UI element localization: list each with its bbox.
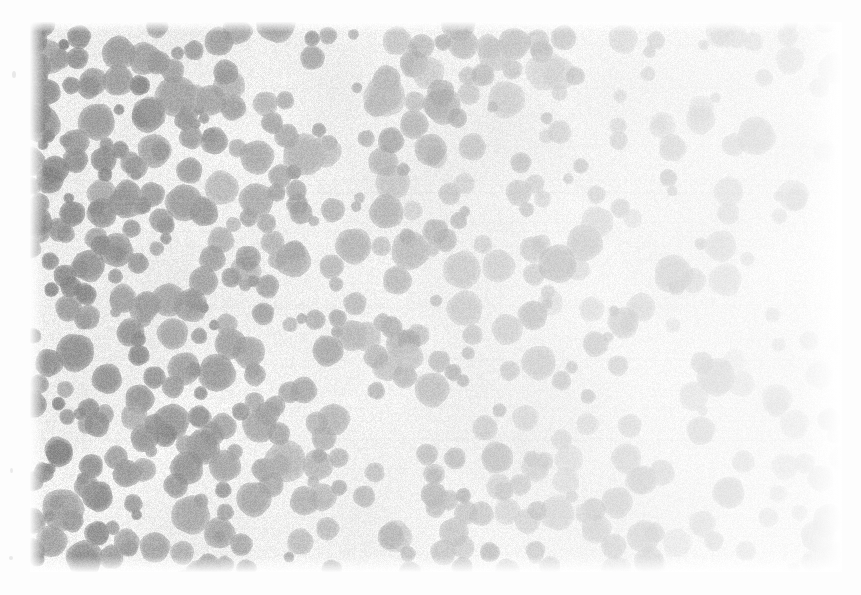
speck-upper-left	[12, 71, 16, 78]
micrograph-figure	[0, 0, 861, 595]
speck-lower-left	[9, 556, 13, 560]
figure-caption-area	[0, 577, 861, 595]
micrograph-plate	[30, 22, 842, 572]
speck-mid-left	[10, 468, 13, 473]
particle-field-canvas	[30, 22, 842, 572]
